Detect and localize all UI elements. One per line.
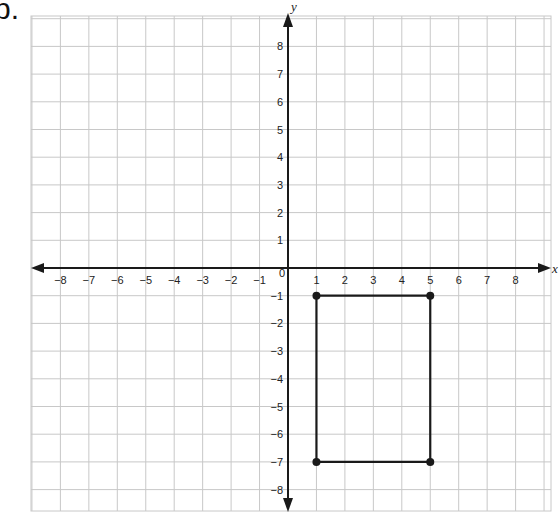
y-axis-down-arrow-icon — [283, 498, 293, 512]
x-tick-label: 8 — [513, 274, 519, 286]
x-tick-label: 2 — [342, 274, 348, 286]
vertex-point — [426, 292, 434, 300]
y-tick-label: 8 — [277, 40, 283, 52]
vertex-point — [312, 292, 320, 300]
origin-label: 0 — [279, 267, 285, 279]
y-tick-label: 6 — [277, 96, 283, 108]
x-tick-label: 1 — [313, 274, 319, 286]
x-axis-left-arrow-icon — [31, 263, 44, 273]
vertex-point — [426, 458, 434, 466]
x-tick-label: 5 — [427, 274, 433, 286]
y-tick-label: −2 — [270, 317, 283, 329]
x-tick-label: 4 — [399, 274, 405, 286]
y-tick-label: −4 — [270, 373, 283, 385]
grid-border — [31, 16, 551, 511]
x-tick-label: 6 — [456, 274, 462, 286]
x-tick-label: −7 — [83, 274, 96, 286]
y-tick-label: −1 — [270, 290, 283, 302]
x-tick-label: −6 — [111, 274, 124, 286]
x-tick-label: −3 — [196, 274, 209, 286]
vertex-point — [312, 458, 320, 466]
x-tick-label: −4 — [168, 274, 181, 286]
x-axis-label: x — [551, 261, 558, 276]
y-tick-label: 3 — [277, 179, 283, 191]
y-tick-label: 7 — [277, 68, 283, 80]
y-tick-label: −3 — [270, 345, 283, 357]
y-tick-label: 2 — [277, 207, 283, 219]
y-tick-label: 4 — [277, 151, 283, 163]
y-tick-label: 1 — [277, 234, 283, 246]
coordinate-grid: yx0−8−7−6−5−4−3−2−11234567887654321−1−2−… — [0, 0, 559, 512]
y-tick-label: −8 — [270, 484, 283, 496]
x-tick-label: 3 — [370, 274, 376, 286]
y-tick-label: −5 — [270, 401, 283, 413]
x-tick-label: 7 — [484, 274, 490, 286]
x-tick-label: −1 — [253, 274, 266, 286]
x-tick-label: −8 — [54, 274, 67, 286]
x-tick-label: −2 — [225, 274, 238, 286]
y-tick-label: −6 — [270, 428, 283, 440]
y-tick-label: −7 — [270, 456, 283, 468]
x-tick-label: −5 — [139, 274, 152, 286]
y-axis-label: y — [289, 0, 297, 14]
y-tick-label: 5 — [277, 124, 283, 136]
y-axis-up-arrow-icon — [283, 13, 293, 27]
